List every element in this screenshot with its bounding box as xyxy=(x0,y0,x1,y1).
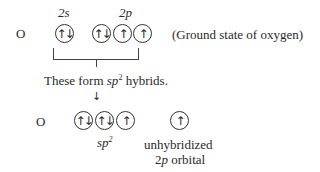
unhybridized-label-line2: 2p orbital xyxy=(155,153,205,166)
hybrid-orbital-1: ↑↓ xyxy=(74,111,93,130)
atom-symbol-top: O xyxy=(16,27,25,40)
electron-pair-icon: ↑↓ xyxy=(93,27,109,41)
orbital-2p-2: ↑ xyxy=(113,24,132,43)
bracket-stem xyxy=(96,59,97,67)
orbital-2p-1: ↑↓ xyxy=(92,24,111,43)
orbital-2p-3: ↑ xyxy=(133,24,152,43)
hybrid-formation-label: These form sp2 hybrids. xyxy=(44,74,168,87)
electron-up-icon: ↑ xyxy=(118,27,126,41)
label-2s: 2s xyxy=(58,6,70,19)
unhybridized-orbital: ↑ xyxy=(170,111,189,130)
bracket-right xyxy=(138,48,139,60)
label-2p: 2p xyxy=(119,6,132,19)
electron-pair-icon: ↑↓ xyxy=(75,114,91,128)
orbital-2s: ↑↓ xyxy=(55,24,74,43)
atom-symbol-bottom: O xyxy=(36,115,45,128)
electron-up-icon: ↑ xyxy=(138,27,146,41)
electron-up-icon: ↑ xyxy=(175,114,183,128)
hybrid-orbital-3: ↑ xyxy=(116,111,135,130)
sp2-label: sp2 xyxy=(97,136,113,149)
electron-pair-icon: ↑↓ xyxy=(96,114,112,128)
hybrid-orbital-2: ↑↓ xyxy=(95,111,114,130)
electron-pair-icon: ↑↓ xyxy=(56,27,72,41)
electron-up-icon: ↑ xyxy=(121,114,129,128)
down-arrow-icon: ↓ xyxy=(92,90,101,103)
unhybridized-label-line1: unhybridized xyxy=(144,138,213,151)
ground-state-caption: (Ground state of oxygen) xyxy=(172,28,303,41)
